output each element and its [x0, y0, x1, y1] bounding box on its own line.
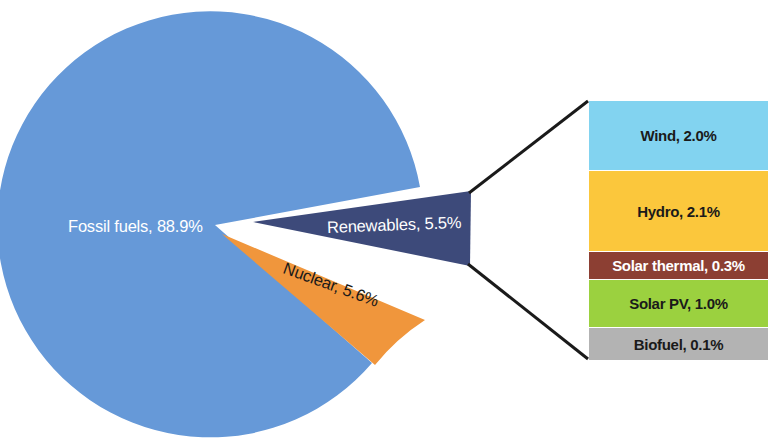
- legend-label-hydro: Hydro, 2.1%: [637, 203, 720, 220]
- energy-mix-pie-figure: Fossil fuels, 88.9% Renewables, 5.5% Nuc…: [0, 0, 769, 446]
- legend-band-wind[interactable]: Wind, 2.0%: [589, 101, 768, 171]
- legend-label-solar-thermal: Solar thermal, 0.3%: [612, 257, 745, 274]
- legend-band-hydro[interactable]: Hydro, 2.1%: [589, 171, 768, 252]
- legend-label-solar-pv: Solar PV, 1.0%: [629, 295, 728, 312]
- legend-band-biofuel[interactable]: Biofuel, 0.1%: [589, 328, 768, 360]
- connector-line-bottom: [468, 264, 588, 359]
- legend-band-solar-pv[interactable]: Solar PV, 1.0%: [589, 280, 768, 328]
- legend-label-biofuel: Biofuel, 0.1%: [634, 336, 723, 353]
- legend-label-wind: Wind, 2.0%: [640, 127, 716, 144]
- connector-line-top: [469, 101, 588, 193]
- legend-band-solar-thermal[interactable]: Solar thermal, 0.3%: [589, 252, 768, 280]
- pie-label-fossil-fuels: Fossil fuels, 88.9%: [68, 217, 203, 236]
- renewables-breakdown-legend: Wind, 2.0% Hydro, 2.1% Solar thermal, 0.…: [589, 101, 768, 360]
